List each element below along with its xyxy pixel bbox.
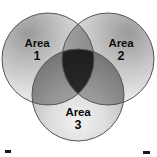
scan-artifact-right	[143, 151, 150, 154]
venn-diagram: Area 1 Area 2 Area 3	[0, 0, 157, 157]
scan-artifact-left	[5, 150, 11, 153]
venn-diagram-svg	[0, 0, 157, 157]
